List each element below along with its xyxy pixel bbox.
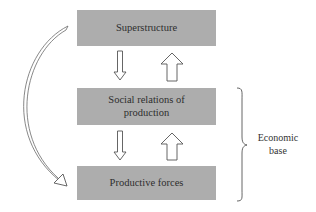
economic-base-line2: base bbox=[250, 144, 306, 157]
superstructure-box: Superstructure bbox=[77, 10, 216, 46]
up-arrow-icon bbox=[161, 133, 183, 160]
down-arrow-icon bbox=[114, 131, 126, 160]
social-relations-label-line1: Social relations of bbox=[108, 94, 184, 107]
productive-forces-box: Productive forces bbox=[77, 166, 216, 200]
curved-arrow-icon bbox=[24, 26, 68, 186]
economic-base-line1: Economic bbox=[250, 131, 306, 144]
social-relations-box: Social relations of production bbox=[77, 88, 216, 125]
productive-forces-label: Productive forces bbox=[110, 177, 184, 190]
up-arrow-icon bbox=[161, 53, 183, 81]
economic-base-label: Economic base bbox=[250, 131, 306, 157]
diagram-canvas: Superstructure Social relations of produ… bbox=[0, 0, 316, 212]
brace-icon bbox=[237, 88, 247, 201]
down-arrow-icon bbox=[114, 51, 126, 80]
social-relations-label-line2: production bbox=[124, 107, 170, 120]
superstructure-label: Superstructure bbox=[116, 22, 177, 35]
